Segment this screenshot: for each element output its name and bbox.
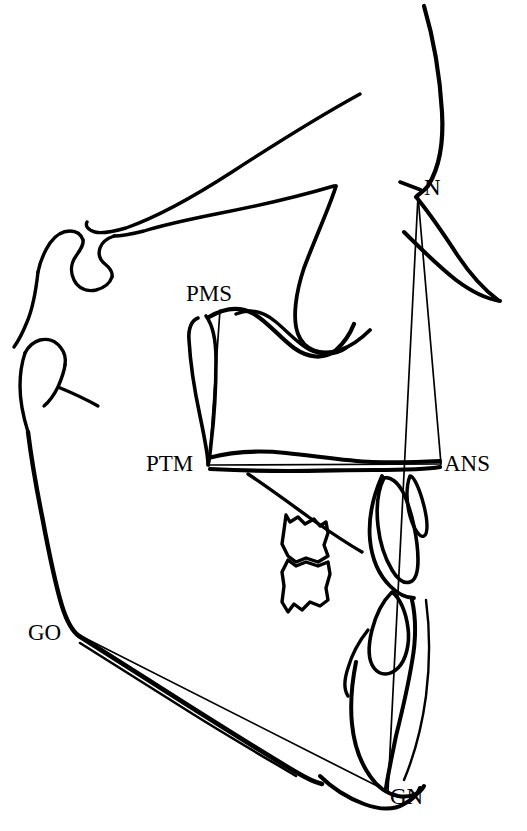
landmark-label-pms: PMS <box>186 282 232 305</box>
soft-tissue-profile-path <box>416 6 442 197</box>
skull-outline-group <box>14 6 500 809</box>
line-ptm-ans <box>208 464 441 465</box>
palate-inferior-path <box>210 467 440 471</box>
maxillary-alveolus-path <box>248 474 362 552</box>
dorsum-sellae-path <box>38 231 83 272</box>
mandibular-condyle-path <box>44 365 65 406</box>
nasion-tick-path <box>400 182 421 190</box>
sella-hook-path <box>99 236 114 277</box>
basion-hook-path <box>25 339 65 365</box>
cervical-vertebra-lower-path <box>282 560 330 612</box>
tracing-canvas <box>0 0 527 831</box>
landmark-label-gn: GN <box>390 785 423 808</box>
condyle-neck-path <box>20 353 28 432</box>
orbital-floor-path <box>114 186 334 236</box>
posterior-ramus-path <box>28 432 79 636</box>
clivus-path <box>14 272 38 347</box>
cervical-vertebra-upper-path <box>282 515 328 562</box>
nasal-floor-path <box>209 309 354 357</box>
landmark-label-n: N <box>424 176 441 199</box>
landmark-label-ans: ANS <box>444 452 490 475</box>
mandibular-lower-border-path <box>79 636 322 784</box>
mandibular-inner-border-path <box>80 643 296 776</box>
sigmoid-notch-path <box>58 387 98 406</box>
upper-incisor-path <box>377 478 418 583</box>
line-n-ans <box>418 196 441 464</box>
pterygoid-plate-path <box>189 318 208 464</box>
lower-incisor-path <box>369 592 408 674</box>
orbital-rim-path <box>295 186 370 352</box>
cephalometric-tracing-figure: N PMS PTM ANS GO GN <box>0 0 527 831</box>
landmark-label-go: GO <box>28 621 61 644</box>
landmark-label-ptm: PTM <box>146 452 193 475</box>
line-go-gn <box>79 635 389 792</box>
nasal-dorsum-path <box>417 198 498 300</box>
measurement-lines-group <box>79 196 441 792</box>
